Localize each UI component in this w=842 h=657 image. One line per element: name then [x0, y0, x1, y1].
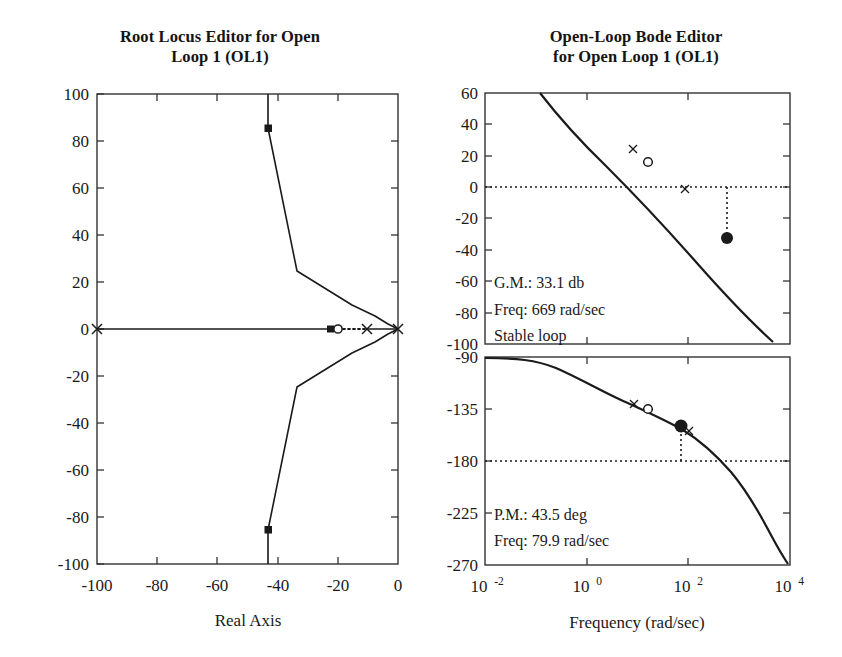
- bode-magnitude-y-tick-labels: 60 40 20 0 -20 -40 -60 -80 -100: [447, 84, 478, 354]
- y-tick-label: -40: [66, 414, 89, 433]
- y-tick-label: 20: [72, 273, 89, 292]
- zero-circle-icon: [644, 405, 653, 414]
- y-tick-label: 40: [461, 115, 478, 134]
- y-tick-label: -80: [66, 508, 89, 527]
- y-tick-label: -135: [447, 400, 478, 419]
- y-tick-label: -40: [455, 241, 478, 260]
- y-tick-label: 20: [461, 147, 478, 166]
- closed-loop-dot-marker[interactable]: [675, 420, 688, 433]
- stability-text: Stable loop: [494, 327, 566, 345]
- x-tick-label: -100: [81, 576, 112, 595]
- svg-text:2: 2: [697, 575, 703, 587]
- zero-circle-icon: [644, 158, 653, 167]
- root-locus-panel: Root Locus Editor for Open Loop 1 (OL1): [0, 0, 421, 657]
- svg-text:10: 10: [674, 577, 691, 596]
- y-tick-label: 60: [72, 179, 89, 198]
- phase-margin-freq-text: Freq: 79.9 rad/sec: [494, 532, 609, 550]
- zero-circle-icon: [334, 325, 342, 333]
- x-tick-label: 10 0: [573, 575, 603, 596]
- y-tick-label: 0: [81, 320, 90, 339]
- y-tick-label: -20: [66, 367, 89, 386]
- svg-text:4: 4: [798, 575, 804, 587]
- bode-phase-y-tick-labels: -90 -135 -180 -225 -270: [447, 348, 478, 575]
- pole-x-icon: [629, 145, 637, 153]
- root-locus-upper-branch: [268, 94, 398, 329]
- svg-text:10: 10: [573, 577, 590, 596]
- root-locus-lower-branch: [268, 329, 398, 564]
- y-tick-label: 40: [72, 226, 89, 245]
- gain-margin-text: G.M.: 33.1 db: [494, 274, 584, 291]
- x-tick-label: 10 -2: [471, 575, 505, 596]
- x-tick-label: -60: [206, 576, 229, 595]
- y-tick-label: -180: [447, 452, 478, 471]
- bode-svg: 60 40 20 0 -20 -40 -60 -80 -100: [421, 0, 842, 657]
- svg-text:10: 10: [775, 577, 792, 596]
- figure-canvas: Root Locus Editor for Open Loop 1 (OL1): [0, 0, 842, 657]
- y-tick-label: 100: [64, 85, 90, 104]
- bode-x-axis-label: Frequency (rad/sec): [569, 613, 704, 632]
- closed-loop-square-marker[interactable]: [327, 326, 334, 333]
- svg-text:-2: -2: [494, 575, 504, 587]
- bode-phase-x-tick-labels: 10 -2 10 0 10 2 10 4: [471, 575, 805, 596]
- x-tick-label: 10 4: [775, 575, 805, 596]
- x-tick-label: -20: [327, 576, 350, 595]
- gain-margin-freq-text: Freq: 669 rad/sec: [494, 301, 605, 319]
- y-tick-label: 60: [461, 84, 478, 103]
- bode-phase-annotations: P.M.: 43.5 deg Freq: 79.9 rad/sec: [494, 506, 609, 550]
- closed-loop-square-marker[interactable]: [265, 125, 273, 133]
- bode-magnitude-annotations: G.M.: 33.1 db Freq: 669 rad/sec Stable l…: [494, 274, 605, 345]
- closed-loop-square-marker[interactable]: [265, 526, 273, 534]
- bode-magnitude-pole-markers: [629, 145, 689, 193]
- y-tick-label: 80: [72, 132, 89, 151]
- y-tick-label: -100: [58, 555, 89, 574]
- x-tick-label: -80: [146, 576, 169, 595]
- y-tick-label: 0: [470, 178, 479, 197]
- svg-text:10: 10: [471, 577, 488, 596]
- svg-text:0: 0: [596, 575, 602, 587]
- y-tick-label: -80: [455, 304, 478, 323]
- y-tick-label: -60: [455, 272, 478, 291]
- y-tick-label: -90: [455, 348, 478, 367]
- x-tick-label: 10 2: [674, 575, 704, 596]
- x-tick-label: 0: [394, 576, 403, 595]
- root-locus-y-tick-labels: 100 80 60 40 20 0 -20 -40 -60 -80 -100: [58, 85, 89, 574]
- phase-margin-text: P.M.: 43.5 deg: [494, 506, 587, 524]
- y-tick-label: -20: [455, 209, 478, 228]
- y-tick-label: -60: [66, 461, 89, 480]
- root-locus-x-axis-label: Real Axis: [215, 611, 282, 630]
- closed-loop-dot-marker[interactable]: [721, 232, 733, 244]
- y-tick-label: -270: [447, 556, 478, 575]
- y-tick-label: -225: [447, 504, 478, 523]
- root-locus-svg: 100 80 60 40 20 0 -20 -40 -60 -80 -100 -…: [0, 0, 421, 657]
- root-locus-x-tick-labels: -100 -80 -60 -40 -20 0: [81, 576, 402, 595]
- pole-x-icon: [681, 185, 689, 193]
- x-tick-label: -40: [267, 576, 290, 595]
- bode-panel: Open-Loop Bode Editor for Open Loop 1 (O…: [421, 0, 842, 657]
